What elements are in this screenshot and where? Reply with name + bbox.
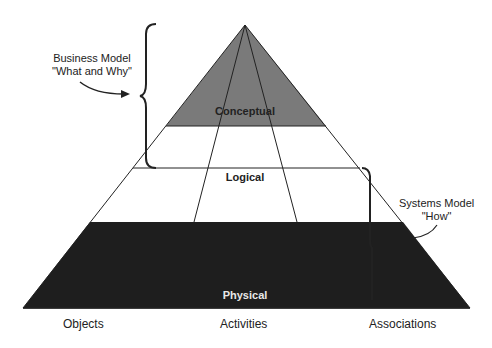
column-label-objects: Objects [63,317,104,331]
systems-model-subtitle: "How" [399,210,474,223]
business-model-annotation: Business Model "What and Why" [52,52,132,78]
systems-model-title: Systems Model [399,197,474,210]
column-label-associations: Associations [369,317,436,331]
level-label-conceptual: Conceptual [215,105,275,117]
systems-model-pointer [413,225,437,238]
level-label-physical: Physical [223,289,268,301]
column-label-activities: Activities [220,317,267,331]
business-model-title: Business Model [52,52,132,65]
business-model-arrow [80,82,124,94]
arrow-head [121,90,130,98]
business-model-subtitle: "What and Why" [52,65,132,78]
level-label-logical: Logical [226,171,265,183]
business-model-brace [140,24,156,168]
systems-model-annotation: Systems Model "How" [399,197,474,223]
